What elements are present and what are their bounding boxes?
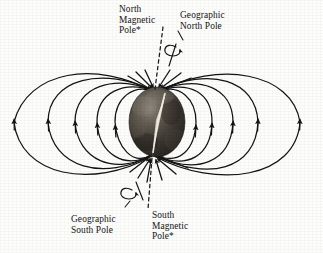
north-pole-convergence-arrows [128, 70, 191, 89]
field-arrow-right-4 [211, 124, 212, 135]
north-converge-arrow-4 [159, 70, 170, 87]
rotation-axis-north-stub [169, 44, 176, 66]
leader-geographic-south [125, 201, 130, 207]
field-arrow-left-5 [115, 126, 116, 137]
field-arrow-left-2 [48, 120, 49, 131]
globe-texture-blotch-5 [129, 110, 147, 138]
field-arrow-left-3 [75, 122, 76, 133]
field-arrow-right-3 [233, 122, 234, 133]
label-geographic-north-pole: Geographic North Pole [180, 10, 225, 31]
label-geographic-south-pole: Geographic South Pole [71, 214, 116, 235]
globe-texture-blotch-6 [146, 90, 174, 104]
field-arrow-right-2 [258, 120, 259, 131]
earth-globe [129, 87, 186, 157]
field-arrow-right-5 [195, 126, 196, 137]
leader-geographic-north [178, 31, 183, 40]
label-south-magnetic-pole: South Magnetic Pole* [152, 210, 188, 242]
rotation-axis-south-stub [136, 182, 143, 200]
figure-canvas: North Magnetic Pole* Geographic North Po… [0, 0, 323, 253]
label-north-magnetic-pole: North Magnetic Pole* [119, 4, 155, 36]
south-rotation-spin-icon [121, 188, 136, 199]
field-arrow-left-4 [97, 124, 98, 135]
south-diverge-arrow-4 [156, 160, 162, 180]
magnetic-axis-upper [155, 27, 163, 89]
globe-texture-blotch-4 [164, 129, 186, 151]
